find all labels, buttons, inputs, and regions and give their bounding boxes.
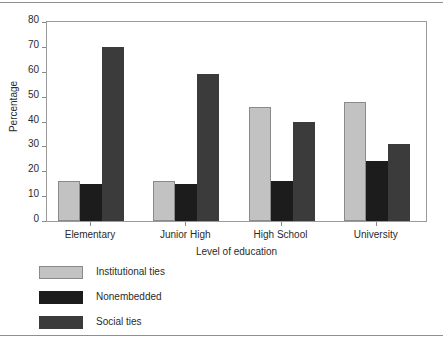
y-axis-tick-label: 40 [28,115,39,125]
x-axis-tick-label: Elementary [65,229,116,240]
plot-area [46,21,427,222]
figure-container: 01020304050607080 Percentage ElementaryJ… [0,0,443,344]
y-axis-tick-label: 70 [28,40,39,50]
bars-layer [47,22,426,221]
y-axis-tick-label: 20 [28,164,39,174]
x-axis-tick-mark [185,222,186,226]
bar [344,102,366,221]
bar [271,181,293,221]
legend-swatch [39,291,83,304]
y-axis-tick-label: 60 [28,65,39,75]
y-axis-tick-label: 10 [28,189,39,199]
x-axis: ElementaryJunior HighHigh SchoolUniversi… [46,222,427,244]
bar-group [249,22,315,221]
bar-group [344,22,410,221]
legend-item: Nonembedded [39,288,319,313]
legend-item: Social ties [39,313,319,338]
y-axis-title: Percentage [8,57,19,157]
bar [197,74,219,221]
bar-group [153,22,219,221]
y-axis-tick-label: 50 [28,90,39,100]
bar [293,122,315,222]
x-axis-tick-mark [281,222,282,226]
bar [58,181,80,221]
legend-label: Nonembedded [96,290,162,304]
chart-legend: Institutional tiesNonembeddedSocial ties [39,263,319,338]
bar [175,184,197,221]
bar [366,161,388,221]
bar [102,47,124,221]
x-axis-tick-mark [376,222,377,226]
x-axis-title: Level of education [46,246,427,257]
bar [153,181,175,221]
legend-label: Social ties [96,315,142,329]
bar [80,184,102,221]
y-axis-tick-label: 0 [33,214,39,224]
y-axis: 01020304050607080 Percentage [0,21,46,223]
x-axis-tick-label: High School [254,229,308,240]
legend-swatch [39,316,83,329]
legend-label: Institutional ties [96,265,165,279]
x-axis-tick-label: University [354,229,398,240]
y-axis-tick-label: 80 [28,15,39,25]
x-axis-tick-label: Junior High [160,229,211,240]
legend-item: Institutional ties [39,263,319,288]
bar-group [58,22,124,221]
top-divider-rule [0,2,443,3]
y-axis-tick-label: 30 [28,139,39,149]
bar [249,107,271,221]
legend-swatch [39,266,83,279]
bar [388,144,410,221]
x-axis-tick-mark [90,222,91,226]
